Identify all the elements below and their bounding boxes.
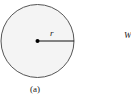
radius-label: r [50,29,54,38]
figure-caption: (a) [30,85,40,94]
center-dot [36,39,40,43]
side-label: W [124,31,131,40]
circle-diagram [0,0,131,100]
